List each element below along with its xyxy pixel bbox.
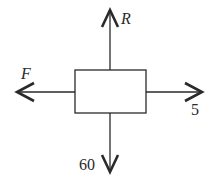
force-label-f: F <box>20 65 31 82</box>
arrow-right-icon <box>146 83 202 101</box>
body-box <box>75 70 146 113</box>
force-label-r: R <box>120 10 131 27</box>
arrow-left-icon <box>17 83 75 101</box>
force-label-60: 60 <box>79 156 95 173</box>
arrow-up-icon <box>102 10 118 70</box>
force-label-5: 5 <box>191 101 199 118</box>
free-body-diagram: R F 5 60 <box>0 0 215 182</box>
arrow-down-icon <box>102 113 118 172</box>
